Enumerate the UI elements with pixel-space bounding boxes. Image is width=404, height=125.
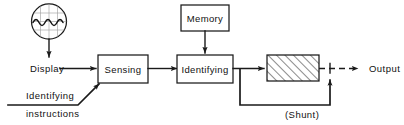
hatched-block bbox=[267, 55, 319, 81]
display-oscilloscope-icon bbox=[32, 4, 67, 57]
display-label: Display bbox=[30, 63, 64, 74]
diagram-canvas: Display Sensing Identifying Memory Outpu… bbox=[0, 0, 404, 125]
output-label: Output bbox=[369, 63, 400, 74]
shunt-label: (Shunt) bbox=[285, 109, 319, 120]
identifying-instructions-label-line2: instructions bbox=[26, 108, 79, 119]
sensing-label: Sensing bbox=[105, 64, 142, 75]
block-diagram: Display Sensing Identifying Memory Outpu… bbox=[0, 0, 404, 125]
memory-label: Memory bbox=[187, 13, 223, 24]
identifying-instructions-label-line1: Identifying bbox=[26, 90, 74, 101]
identifying-label: Identifying bbox=[181, 64, 228, 75]
